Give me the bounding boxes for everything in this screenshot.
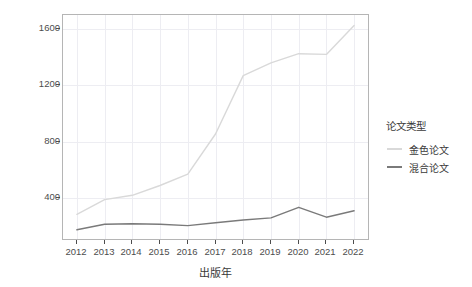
y-tick-mark (56, 28, 60, 29)
x-tick-mark (215, 240, 216, 244)
y-tick-mark (56, 84, 60, 85)
x-tick-mark (242, 240, 243, 244)
y-tick-label: 800 (26, 136, 60, 146)
y-tick-label: 400 (26, 192, 60, 202)
legend-item-label: 金色论文 (409, 142, 449, 157)
legend-line-icon (386, 160, 403, 174)
y-tick-mark (56, 141, 60, 142)
legend-title: 论文类型 (386, 118, 470, 133)
series-lines (63, 15, 368, 239)
y-tick-mark (56, 197, 60, 198)
y-tick-label: 1200 (26, 79, 60, 89)
x-tick-mark (325, 240, 326, 244)
plot-panel (62, 14, 369, 240)
x-tick-mark (131, 240, 132, 244)
legend-item-gold[interactable]: 金色论文 (386, 140, 470, 158)
x-tick-mark (353, 240, 354, 244)
x-tick-mark (270, 240, 271, 244)
line-chart: APC费用（万元） 40080012001600 201220132014201… (0, 0, 472, 287)
x-axis: 2012201320142015201620172018201920202021… (62, 240, 369, 262)
x-tick-label: 2022 (336, 246, 370, 258)
legend-line-icon (386, 142, 403, 156)
series-line (77, 207, 354, 230)
legend-item-hybrid[interactable]: 混合论文 (386, 158, 470, 176)
x-tick-mark (104, 240, 105, 244)
series-line (77, 26, 354, 215)
x-tick-mark (76, 240, 77, 244)
legend: 论文类型 金色论文 混合论文 (386, 118, 470, 176)
x-tick-mark (298, 240, 299, 244)
x-tick-mark (159, 240, 160, 244)
y-axis: 40080012001600 (16, 0, 60, 287)
x-axis-title: 出版年 (62, 264, 369, 280)
legend-item-label: 混合论文 (409, 160, 449, 175)
y-tick-label: 1600 (26, 23, 60, 33)
x-tick-mark (187, 240, 188, 244)
